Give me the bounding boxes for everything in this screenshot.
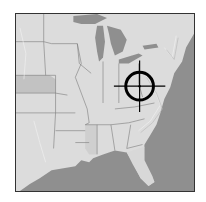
- map-frame: [15, 13, 195, 192]
- state-nebraska-shaded: [16, 75, 56, 93]
- map-svg: [16, 14, 194, 191]
- state-mississippi-shaded: [85, 125, 97, 155]
